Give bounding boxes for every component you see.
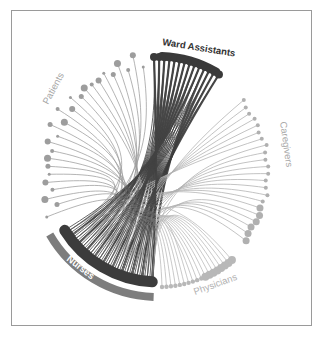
node-patients xyxy=(130,52,136,58)
node-patients xyxy=(56,107,60,111)
node-patients xyxy=(96,77,102,83)
node-caregivers xyxy=(253,218,260,225)
node-caregivers xyxy=(256,123,260,127)
node-caregivers xyxy=(256,212,263,219)
node-caregivers xyxy=(261,199,265,203)
node-caregivers xyxy=(257,131,261,135)
node-patients xyxy=(61,119,68,126)
node-patients xyxy=(44,155,51,162)
node-patients xyxy=(81,84,88,91)
node-caregivers xyxy=(265,193,269,197)
node-caregivers xyxy=(243,237,250,244)
edge-physicians xyxy=(152,220,188,283)
node-caregivers xyxy=(263,158,267,162)
node-patients xyxy=(42,180,48,186)
node-patients xyxy=(50,149,54,153)
node-physicians xyxy=(178,283,182,287)
node-physicians xyxy=(164,284,168,288)
node-caregivers xyxy=(266,172,270,176)
node-caregivers xyxy=(245,230,252,237)
edge-caregivers xyxy=(147,200,259,280)
node-patients xyxy=(126,68,130,72)
node-caregivers xyxy=(244,106,248,110)
node-caregivers xyxy=(242,98,246,102)
node-caregivers xyxy=(266,164,270,168)
node-caregivers xyxy=(263,151,267,155)
node-caregivers xyxy=(247,112,251,116)
node-caregivers xyxy=(253,117,257,121)
node-patients xyxy=(48,173,51,176)
node-patients xyxy=(90,82,94,86)
node-caregivers xyxy=(260,137,264,141)
node-patients xyxy=(69,106,75,112)
node-physicians xyxy=(199,276,203,280)
node-physicians xyxy=(191,279,195,283)
node-ward-assistants xyxy=(215,70,223,78)
node-caregivers xyxy=(256,204,263,211)
node-patients xyxy=(54,202,59,207)
node-caregivers xyxy=(264,179,268,183)
node-physicians xyxy=(173,283,177,287)
node-physicians xyxy=(195,278,199,282)
node-caregivers xyxy=(248,223,255,230)
node-physicians xyxy=(186,281,190,285)
node-physicians xyxy=(182,282,186,286)
node-caregivers xyxy=(264,186,268,190)
node-patients xyxy=(45,164,50,169)
node-patients xyxy=(114,60,121,67)
node-patients xyxy=(102,72,105,75)
node-patients xyxy=(45,215,48,218)
edge-bundling-diagram: Ward Assistants Caregivers Physicians Pa… xyxy=(0,0,322,337)
node-patients xyxy=(48,122,53,127)
node-patients xyxy=(69,96,72,99)
node-physicians xyxy=(160,285,164,289)
group-label-caregivers: Caregivers xyxy=(278,121,295,168)
node-patients xyxy=(41,196,48,203)
group-label-patients: Patients xyxy=(40,70,66,106)
node-physicians xyxy=(169,284,173,288)
node-patients xyxy=(111,72,116,77)
node-patients xyxy=(56,135,59,138)
node-patients xyxy=(50,188,54,192)
node-patients xyxy=(142,65,145,68)
node-patients xyxy=(45,139,51,145)
node-caregivers xyxy=(265,143,269,147)
node-patients xyxy=(79,94,84,99)
